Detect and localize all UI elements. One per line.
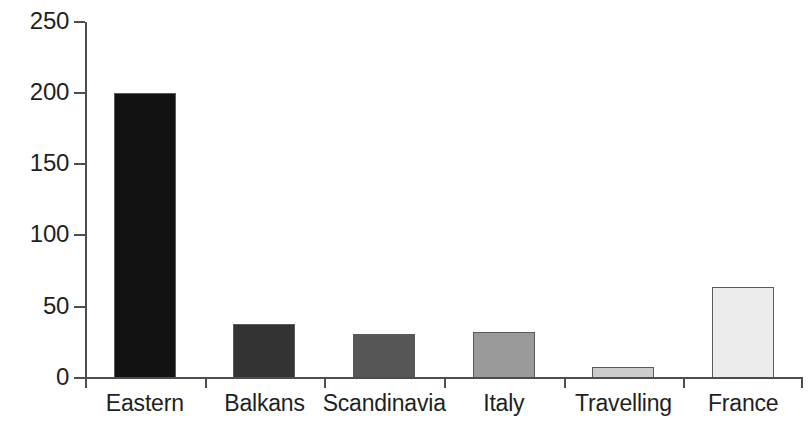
y-axis-tick-mark — [74, 163, 85, 165]
bar-eastern[interactable] — [114, 93, 176, 378]
x-axis-tick-mark — [85, 377, 87, 388]
plot-area — [85, 22, 803, 378]
bar-slot-scandinavia — [324, 22, 444, 378]
bar-scandinavia[interactable] — [353, 334, 415, 378]
y-axis-tick-label: 200 — [30, 79, 69, 105]
y-axis-tick-mark — [74, 234, 85, 236]
bar-chart: 0 50 100 150 200 250 — [0, 0, 811, 442]
y-axis-tick-label: 150 — [30, 150, 69, 176]
y-axis-tick-label: 50 — [43, 293, 69, 319]
x-axis-tick-mark — [683, 377, 685, 388]
bar-balkans[interactable] — [233, 324, 295, 378]
x-axis-label-travelling: Travelling — [575, 389, 672, 417]
y-axis-tick-mark — [74, 306, 85, 308]
y-axis-tick-label: 250 — [30, 8, 69, 34]
x-axis-label-balkans: Balkans — [224, 389, 304, 417]
y-axis-tick-mark — [74, 377, 85, 379]
x-axis-label-scandinavia: Scandinavia — [323, 389, 446, 417]
y-axis-tick-mark — [74, 21, 85, 23]
y-axis-tick-label: 100 — [30, 221, 69, 247]
x-axis-label-italy: Italy — [483, 389, 524, 417]
bar-france[interactable] — [712, 287, 774, 378]
bar-slot-balkans — [205, 22, 325, 378]
y-axis-tick-label: 0 — [56, 364, 69, 390]
x-axis-label-eastern: Eastern — [106, 389, 184, 417]
bar-slot-italy — [444, 22, 564, 378]
x-axis-tick-mark — [205, 377, 207, 388]
x-axis-tick-mark — [444, 377, 446, 388]
x-axis-label-france: France — [708, 389, 778, 417]
bar-slot-eastern — [85, 22, 205, 378]
bar-slot-france — [683, 22, 803, 378]
bar-italy[interactable] — [473, 332, 535, 378]
y-axis-tick-mark — [74, 92, 85, 94]
x-axis-tick-mark — [564, 377, 566, 388]
x-axis-tick-mark — [324, 377, 326, 388]
x-axis-tick-mark — [801, 377, 803, 388]
bar-slot-travelling — [564, 22, 684, 378]
